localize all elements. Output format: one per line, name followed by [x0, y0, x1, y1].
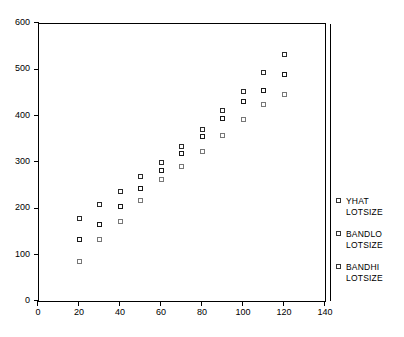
data-point — [159, 168, 164, 173]
x-tick-label: 80 — [187, 308, 217, 317]
legend-row: BANDHI — [336, 262, 404, 273]
data-point — [220, 133, 225, 138]
x-tick — [242, 301, 243, 306]
data-point — [200, 149, 205, 154]
legend-divider — [330, 24, 331, 301]
legend-series-name: BANDLO — [346, 229, 382, 240]
data-point — [179, 144, 184, 149]
y-tick-label: 400 — [0, 111, 30, 120]
x-tick-label: 140 — [310, 308, 340, 317]
y-tick-label: 600 — [0, 18, 30, 27]
x-tick — [201, 301, 202, 306]
data-point — [220, 108, 225, 113]
x-tick — [160, 301, 161, 306]
data-point — [220, 116, 225, 121]
legend-series-name: BANDHI — [346, 262, 379, 273]
x-tick-label: 20 — [64, 308, 94, 317]
x-tick — [324, 301, 325, 306]
legend-row: YHAT — [336, 196, 404, 207]
y-tick — [34, 69, 39, 70]
data-point — [97, 222, 102, 227]
data-point — [282, 52, 287, 57]
data-point — [261, 102, 266, 107]
y-tick — [34, 161, 39, 162]
data-point — [138, 174, 143, 179]
legend-marker-icon — [336, 231, 341, 236]
data-point — [179, 164, 184, 169]
x-tick-label: 60 — [146, 308, 176, 317]
x-tick — [119, 301, 120, 306]
y-tick — [34, 115, 39, 116]
legend-entry[interactable]: BANDHILOTSIZE — [336, 262, 404, 284]
data-point — [179, 151, 184, 156]
x-tick — [37, 301, 38, 306]
x-tick-label: 40 — [105, 308, 135, 317]
y-tick-label: 500 — [0, 64, 30, 73]
x-tick-label: 100 — [228, 308, 258, 317]
legend-marker-icon — [336, 264, 341, 269]
y-tick — [34, 208, 39, 209]
data-point — [241, 117, 246, 122]
legend-series-variable: LOTSIZE — [346, 240, 404, 251]
legend-marker-icon — [336, 198, 341, 203]
data-point — [118, 219, 123, 224]
y-tick-label: 200 — [0, 203, 30, 212]
data-point — [241, 89, 246, 94]
data-point — [159, 160, 164, 165]
data-point — [118, 189, 123, 194]
legend-series-name: YHAT — [346, 196, 369, 207]
plot-right-border — [325, 23, 326, 302]
y-tick — [34, 254, 39, 255]
y-tick — [34, 22, 39, 23]
x-tick-label: 120 — [269, 308, 299, 317]
chart-container: 0100200300400500600 020406080100120140 Y… — [0, 0, 404, 337]
data-point — [200, 134, 205, 139]
data-point — [159, 177, 164, 182]
x-tick-label: 0 — [23, 308, 53, 317]
y-tick-label: 100 — [0, 250, 30, 259]
data-point — [138, 186, 143, 191]
data-point — [282, 72, 287, 77]
data-point — [261, 88, 266, 93]
data-point — [77, 259, 82, 264]
y-tick-label: 0 — [0, 296, 30, 305]
legend-row: BANDLO — [336, 229, 404, 240]
data-point — [97, 237, 102, 242]
chart-legend: YHATLOTSIZEBANDLOLOTSIZEBANDHILOTSIZE — [336, 196, 404, 295]
data-point — [138, 198, 143, 203]
data-point — [97, 202, 102, 207]
data-point — [77, 237, 82, 242]
data-point — [118, 204, 123, 209]
data-point — [77, 216, 82, 221]
y-tick-label: 300 — [0, 157, 30, 166]
legend-entry[interactable]: BANDLOLOTSIZE — [336, 229, 404, 251]
data-point — [241, 99, 246, 104]
data-point — [261, 70, 266, 75]
legend-series-variable: LOTSIZE — [346, 273, 404, 284]
legend-entry[interactable]: YHATLOTSIZE — [336, 196, 404, 218]
x-tick — [78, 301, 79, 306]
data-point — [282, 92, 287, 97]
x-tick — [283, 301, 284, 306]
legend-series-variable: LOTSIZE — [346, 207, 404, 218]
data-point — [200, 127, 205, 132]
